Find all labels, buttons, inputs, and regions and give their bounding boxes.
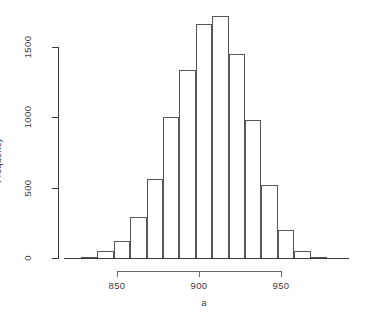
x-axis-tick-850 [117, 271, 118, 277]
histogram-bar [147, 179, 163, 258]
x-axis-tick-label-950: 950 [259, 280, 303, 291]
x-axis-title-text: a [201, 297, 206, 308]
histogram-bar [294, 251, 310, 258]
histogram-bar [229, 54, 245, 258]
x-axis-tick-label-900: 900 [177, 280, 221, 291]
histogram-bar [130, 217, 146, 258]
histogram-bar [261, 185, 277, 258]
x-axis-tick-900 [199, 271, 200, 277]
x-axis-line [64, 258, 349, 259]
histogram-plot: 1500 1000 500 0 Frequency 850 900 950 a [0, 0, 370, 320]
histogram-bar [245, 120, 261, 258]
histogram-bars [0, 0, 370, 320]
histogram-bar [114, 241, 130, 258]
x-axis-tick-label-850: 850 [95, 280, 139, 291]
histogram-bar [97, 251, 113, 258]
histogram-bar [196, 24, 212, 258]
x-axis-title: a [0, 297, 370, 308]
histogram-bar [278, 230, 294, 258]
histogram-bar [163, 117, 179, 258]
histogram-bar [212, 16, 228, 258]
x-axis-tick-950 [281, 271, 282, 277]
histogram-bar [179, 70, 195, 258]
